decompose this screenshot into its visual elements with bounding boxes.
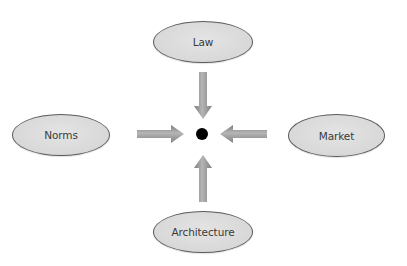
- node-market-label: Market: [319, 130, 355, 142]
- arrow-down-icon: [193, 72, 213, 120]
- center-dot: [196, 128, 208, 140]
- node-law: Law: [153, 21, 253, 63]
- arrow-left-icon: [219, 124, 267, 144]
- regulation-modalities-diagram: Law Norms Market Architecture: [0, 0, 407, 266]
- node-market: Market: [288, 114, 385, 157]
- node-norms: Norms: [12, 114, 110, 156]
- node-architecture-label: Architecture: [171, 226, 234, 238]
- arrow-right-icon: [137, 124, 185, 144]
- node-law-label: Law: [193, 36, 214, 48]
- node-architecture: Architecture: [153, 211, 253, 253]
- arrow-up-icon: [193, 154, 213, 202]
- node-norms-label: Norms: [44, 129, 78, 141]
